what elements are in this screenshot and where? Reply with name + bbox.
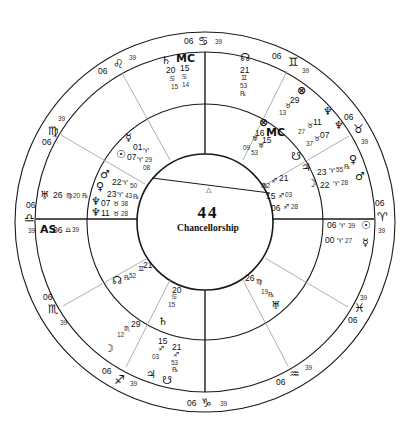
svg-text:23: 23	[317, 167, 327, 177]
svg-text:♍: ♍	[66, 192, 72, 200]
svg-text:38: 38	[121, 200, 129, 207]
uranus-inner-br: ♅	[271, 299, 281, 312]
svg-text:♉: ♉	[307, 122, 313, 130]
svg-text:♈: ♈	[143, 147, 149, 155]
svg-text:♉: ♉	[314, 135, 320, 143]
zodiac-gemini: 06 ♊ 39	[272, 51, 310, 74]
svg-text:06: 06	[271, 203, 281, 213]
svg-text:06: 06	[327, 220, 337, 230]
svg-text:37: 37	[306, 140, 314, 147]
cancer-icon: ♋	[198, 34, 209, 48]
mars-left: ♂ 22 ♈ 50	[100, 168, 138, 189]
svg-text:26: 26	[245, 273, 255, 283]
mars-icon: ♂	[355, 170, 365, 183]
svg-text:06: 06	[375, 198, 385, 208]
svg-text:11: 11	[101, 208, 110, 218]
svg-text:℞: ℞	[261, 182, 267, 189]
svg-text:28: 28	[291, 203, 299, 210]
gemini-icon: ♊	[288, 55, 299, 69]
svg-text:39: 39	[302, 67, 310, 74]
svg-text:08: 08	[143, 164, 151, 171]
sun-icon: ☉	[116, 148, 126, 161]
north-node-icon: ☊	[112, 274, 122, 287]
svg-text:53: 53	[171, 359, 179, 366]
svg-text:29: 29	[290, 95, 300, 105]
svg-text:55: 55	[336, 166, 344, 173]
aspect-triangle-icon: △	[206, 186, 212, 194]
svg-text:39: 39	[129, 54, 137, 61]
svg-text:♈: ♈	[337, 237, 343, 245]
svg-text:06: 06	[26, 200, 36, 210]
zodiac-leo: 06 ♌ 39	[98, 54, 137, 76]
zodiac-virgo: 39 ♍ 06	[42, 115, 66, 147]
sagittarius-icon: ♐	[114, 373, 125, 387]
svg-text:♐: ♐	[173, 351, 179, 359]
chart-wheel: 06 ♋ 39 06 ♊ 39 06 ♉ 39 06 ♈ 39 39 ♓ 06 …	[0, 0, 409, 434]
north-node-icon: ☊	[240, 51, 250, 64]
sun-left: ☉ 01 ♈ 07 ♈ 29 08	[116, 142, 153, 171]
svg-text:22: 22	[112, 177, 122, 187]
svg-text:13: 13	[279, 109, 287, 116]
svg-text:21: 21	[279, 173, 289, 183]
svg-text:39: 39	[130, 380, 138, 387]
saturn-inner: ♄	[158, 315, 168, 328]
svg-text:♋: ♋	[181, 73, 187, 81]
svg-text:℞: ℞	[240, 90, 246, 97]
svg-text:♏: ♏	[124, 325, 131, 333]
svg-text:39: 39	[58, 115, 66, 122]
south-node-icon: ☋	[162, 374, 172, 387]
svg-text:♉: ♉	[113, 210, 119, 218]
svg-text:♉: ♉	[113, 200, 119, 208]
svg-text:06: 06	[42, 137, 52, 147]
south-node-inner: ☋	[291, 150, 301, 163]
svg-text:℞: ℞	[133, 193, 139, 200]
virgo-inner: 26 ♍ 19 ℞	[245, 273, 274, 298]
libra-icon: ♎	[24, 211, 35, 225]
svg-text:06: 06	[272, 51, 282, 61]
svg-text:03: 03	[152, 353, 160, 360]
neptune-icon: ♆	[91, 206, 101, 219]
neptune-left-2: ♆ 11 ♉ 28	[91, 206, 129, 219]
uranus-icon: ♅	[258, 142, 264, 150]
house-cusp	[63, 259, 146, 306]
saturn-icon: ♄	[158, 315, 168, 328]
svg-text:♈: ♈	[137, 156, 143, 164]
svg-text:53: 53	[240, 82, 248, 89]
venus-right: ♀ 23 ♈ 55 ℞	[317, 153, 357, 177]
svg-text:06: 06	[348, 315, 358, 325]
zodiac-capricorn: 06 ♑ 39	[187, 396, 228, 410]
sagittarius-1: 21 ♐ 52 ℞	[261, 173, 289, 189]
uranus-left: ♅ 26 ♍ 20 ℞	[40, 189, 88, 202]
svg-text:℞: ℞	[268, 291, 274, 298]
svg-text:06: 06	[102, 366, 112, 376]
zodiac-aries: 06 ♈ 39	[375, 198, 388, 234]
neptune-icon: ♆	[323, 105, 333, 118]
neptune-icon: ♆	[334, 119, 344, 132]
svg-text:♈: ♈	[122, 179, 128, 187]
svg-text:39: 39	[360, 294, 368, 301]
svg-text:03: 03	[285, 191, 293, 198]
svg-text:15: 15	[171, 83, 179, 90]
svg-text:06: 06	[184, 36, 194, 46]
svg-text:♐: ♐	[158, 345, 164, 353]
svg-text:♐: ♐	[271, 177, 277, 185]
svg-text:♐: ♐	[278, 192, 284, 200]
mercury-right: 00 ♈ 27 ☿	[325, 235, 369, 249]
leo-icon: ♌	[113, 57, 124, 71]
svg-text:♋: ♋	[169, 75, 175, 83]
mercury-left: ☿	[125, 131, 132, 144]
moon-icon: ☽	[104, 342, 114, 355]
svg-text:♋: ♋	[171, 293, 177, 301]
sagittarius-2: 15 ♐ 03	[266, 191, 293, 201]
svg-text:♊: ♊	[241, 74, 247, 82]
uranus-icon: ♅	[40, 189, 50, 202]
sagittarius-3: 06 ♐ 28	[271, 203, 299, 213]
chart-title: Chancellorship	[177, 223, 239, 233]
svg-text:29: 29	[131, 319, 141, 329]
svg-text:39: 39	[348, 222, 356, 229]
moon-inner: ☽	[307, 177, 317, 190]
svg-text:15: 15	[168, 301, 176, 308]
svg-text:06: 06	[344, 112, 354, 122]
virgo-icon: ♍	[48, 124, 59, 138]
mercury-icon: ☿	[362, 236, 369, 249]
